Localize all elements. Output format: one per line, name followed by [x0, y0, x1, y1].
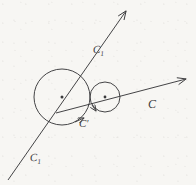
small-circle-center-dot [104, 96, 107, 99]
label-c-prime: C′ [79, 118, 89, 129]
label-c: C [148, 98, 156, 110]
label-c1-upper-subscript: 1 [100, 50, 104, 58]
geometry-figure: C1 C1 C′ C [0, 0, 196, 185]
large-circle-center-dot [61, 96, 64, 99]
label-c1-upper: C1 [93, 44, 104, 59]
label-c-prime-mark: ′ [86, 118, 88, 129]
label-c1-lower-subscript: 1 [37, 158, 41, 166]
label-c-base: C [148, 97, 156, 111]
ray-c1 [8, 11, 126, 180]
label-c1-lower: C1 [30, 152, 41, 167]
